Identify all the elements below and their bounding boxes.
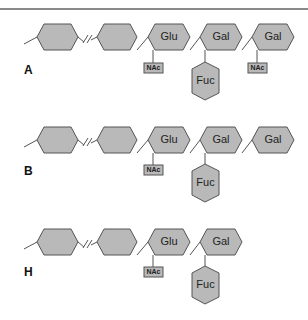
- hexose-unit: [37, 24, 78, 50]
- panel-label-b: B: [24, 164, 33, 178]
- panel-label-a: A: [24, 63, 33, 77]
- svg-text:Glu: Glu: [160, 30, 177, 42]
- hexose-unit: [37, 127, 78, 153]
- svg-text:Fuc: Fuc: [196, 74, 215, 86]
- svg-text:Gal: Gal: [212, 133, 229, 145]
- svg-text:Fuc: Fuc: [196, 278, 215, 290]
- svg-text:NAc: NAc: [146, 166, 160, 173]
- panel-h-chain: Glu NAc Gal Fuc: [24, 229, 242, 304]
- svg-text:Gal: Gal: [212, 30, 229, 42]
- hexose-unit: [37, 229, 78, 255]
- panel-label-h: H: [24, 265, 33, 279]
- panel-b-chain: Glu NAc Gal Fuc Gal: [24, 127, 294, 202]
- hexose-unit: [97, 229, 137, 255]
- svg-text:Fuc: Fuc: [196, 176, 215, 188]
- svg-text:NAc: NAc: [250, 64, 264, 71]
- svg-text:Glu: Glu: [160, 133, 177, 145]
- svg-text:Glu: Glu: [160, 235, 177, 247]
- svg-text:NAc: NAc: [146, 268, 160, 275]
- svg-text:Gal: Gal: [264, 30, 281, 42]
- svg-text:Gal: Gal: [212, 235, 229, 247]
- hexose-unit: [97, 24, 137, 50]
- svg-text:Gal: Gal: [264, 133, 281, 145]
- panel-a-chain: Glu NAc Gal Fuc Gal NAc: [24, 24, 294, 100]
- blood-group-antigen-diagram: .hx{fill:#b9b9b9;stroke:#555;stroke-widt…: [0, 0, 308, 320]
- svg-text:NAc: NAc: [146, 64, 160, 71]
- hexose-unit: [97, 127, 137, 153]
